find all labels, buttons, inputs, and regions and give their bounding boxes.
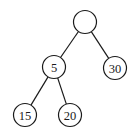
- tree-node-n5: 5: [43, 56, 66, 79]
- tree-edge-root-n5: [61, 31, 79, 57]
- node-circle: [74, 11, 97, 34]
- node-label: 30: [109, 62, 122, 76]
- tree-nodes: 5301520: [14, 11, 127, 127]
- tree-node-root: [74, 11, 97, 34]
- node-label: 20: [64, 109, 77, 123]
- tree-edge-n5-n20: [58, 78, 67, 104]
- binary-tree-diagram: 5301520: [0, 0, 136, 136]
- tree-edge-n5-n15: [31, 77, 48, 105]
- tree-node-n20: 20: [59, 104, 82, 127]
- tree-node-n30: 30: [104, 57, 127, 80]
- node-label: 5: [51, 61, 57, 75]
- tree-edge-root-n30: [91, 32, 108, 59]
- tree-node-n15: 15: [14, 104, 37, 127]
- node-label: 15: [19, 109, 32, 123]
